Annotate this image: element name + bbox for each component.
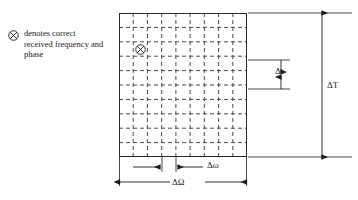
grid-border — [119, 13, 247, 157]
circled-x-icon — [8, 30, 19, 41]
figure-canvas: denotes correct received frequency and p… — [0, 0, 358, 200]
delta-Omega-label: ΔΩ — [172, 177, 184, 187]
delta-T-label: ΔT — [327, 80, 338, 90]
delta-t-label: Δt — [275, 66, 283, 76]
circled-x-marker — [135, 44, 146, 55]
legend-text: denotes correct received frequency and p… — [24, 28, 104, 60]
cell-grid — [119, 13, 247, 157]
delta-omega-label: Δω — [207, 160, 219, 170]
